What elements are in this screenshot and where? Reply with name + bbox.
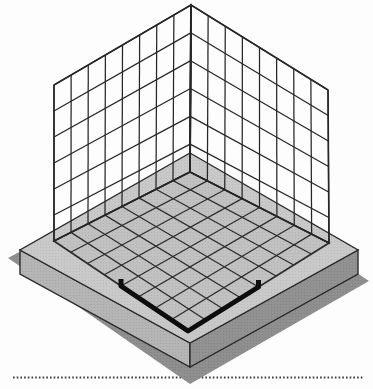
wall-corner-edge (190, 5, 191, 172)
figure-isometric-corner-grid (0, 0, 373, 389)
isometric-corner-grid-diagram (0, 0, 373, 389)
